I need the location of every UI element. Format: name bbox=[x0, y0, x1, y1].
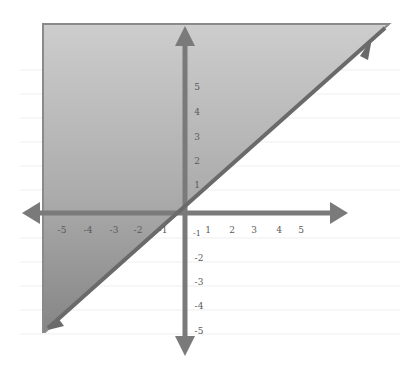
x-tick-label: 1 bbox=[205, 225, 211, 235]
y-tick-label: -3 bbox=[195, 277, 204, 287]
x-tick-label: -1 bbox=[159, 225, 168, 235]
x-tick-label: 3 bbox=[251, 225, 257, 235]
y-tick-label: 4 bbox=[194, 107, 200, 117]
x-tick-label: -3 bbox=[110, 225, 119, 235]
y-tick-label: 3 bbox=[194, 132, 200, 142]
x-tick-label: 5 bbox=[298, 225, 304, 235]
inequality-graph: -5 -4 -3 -2 -1 1 2 3 4 5 5 4 3 2 1 -1 -2… bbox=[0, 0, 414, 377]
y-tick-label: -4 bbox=[195, 301, 204, 311]
x-tick-label: -5 bbox=[58, 225, 67, 235]
x-tick-label: 2 bbox=[229, 225, 235, 235]
y-tick-label: -5 bbox=[195, 326, 204, 336]
x-tick-label: 4 bbox=[276, 225, 282, 235]
y-tick-label: 5 bbox=[194, 82, 200, 92]
y-tick-label: 2 bbox=[194, 156, 200, 166]
x-tick-label: -4 bbox=[84, 225, 93, 235]
x-tick-label: -2 bbox=[134, 225, 143, 235]
y-tick-label: -2 bbox=[195, 253, 204, 263]
x-axis-right-arrow-icon bbox=[330, 202, 348, 224]
y-axis-down-arrow-icon bbox=[175, 336, 195, 356]
y-tick-label: 1 bbox=[194, 180, 200, 190]
y-tick-label: -1 bbox=[193, 229, 201, 238]
x-axis-left-arrow-icon bbox=[22, 202, 40, 224]
